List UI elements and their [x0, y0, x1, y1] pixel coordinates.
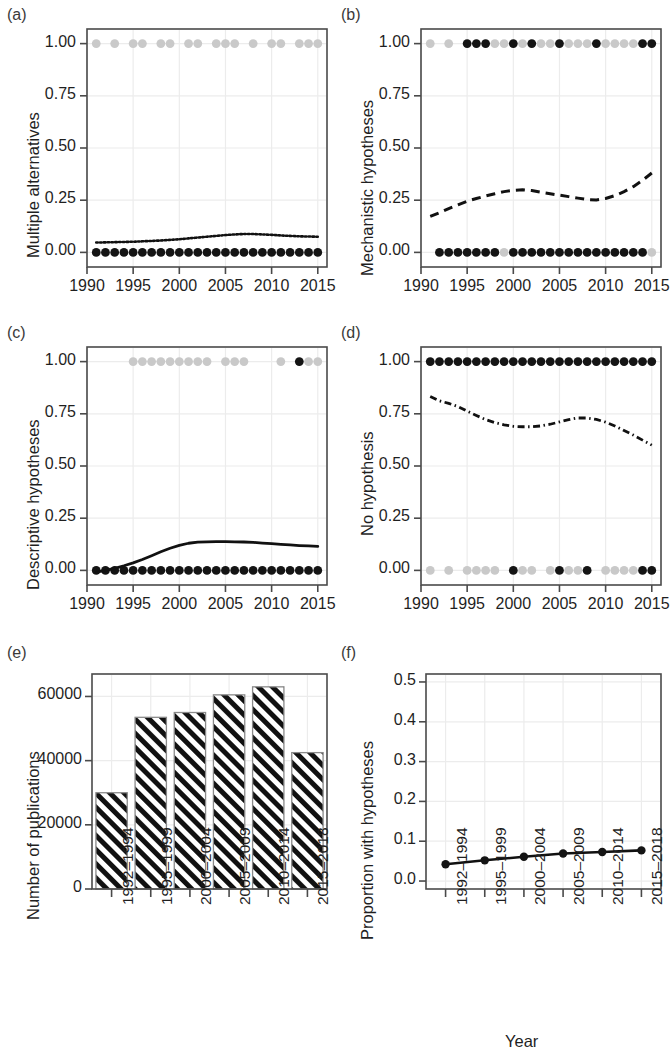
y-tick-label: 0.25 [0, 507, 76, 525]
y-tick-label: 0.00 [0, 241, 76, 259]
x-tick-label: 2015 [632, 277, 672, 295]
x-tick-label: 2000 [493, 595, 533, 613]
x-tick-label: 2005 [539, 595, 579, 613]
y-tick-label: 1.00 [0, 351, 76, 369]
y-tick-label: 0.1 [334, 830, 416, 848]
panel-f: (f) Proportion with hypotheses 0.00.10.2… [334, 630, 668, 1058]
y-tick-label: 0.4 [334, 711, 416, 729]
panel-d-label: (d) [341, 324, 361, 342]
x-tick-label: 1990 [401, 595, 441, 613]
x-tick-label: 1995 [113, 277, 153, 295]
y-tick-label: 0.25 [334, 507, 410, 525]
y-tick-label: 0.5 [334, 671, 416, 689]
x-tick-label: 2005 [539, 277, 579, 295]
x-tick-label: 2010–2014 [275, 827, 293, 905]
panel-f-x-axis-label: Year [505, 1032, 538, 1051]
y-tick-label: 1.00 [334, 351, 410, 369]
x-tick-label: 1995 [447, 595, 487, 613]
y-tick-label: 0.75 [334, 85, 410, 103]
y-tick-label: 60000 [0, 685, 82, 703]
x-tick-label: 1995 [113, 595, 153, 613]
x-tick-label: 1995 [447, 277, 487, 295]
x-tick-label: 2015–2018 [648, 827, 666, 905]
y-tick-label: 0.75 [0, 85, 76, 103]
x-tick-label: 2000 [493, 277, 533, 295]
x-tick-label: 2010 [586, 595, 626, 613]
y-tick-label: 1.00 [0, 33, 76, 51]
x-tick-label: 2015 [298, 595, 338, 613]
y-tick-label: 0.00 [334, 559, 410, 577]
x-tick-label: 2005 [205, 277, 245, 295]
x-tick-label: 2005 [205, 595, 245, 613]
y-tick-label: 1.00 [334, 33, 410, 51]
x-tick-label: 2000 [159, 277, 199, 295]
panel-b-label: (b) [341, 6, 361, 24]
x-tick-label: 1992–1994 [119, 827, 137, 905]
x-tick-label: 1995–1999 [158, 827, 176, 905]
panel-a-y-axis-label: Multiple alternatives [24, 112, 43, 258]
y-tick-label: 0.2 [334, 790, 416, 808]
y-tick-label: 0.00 [0, 559, 76, 577]
x-tick-label: 2000 [159, 595, 199, 613]
panel-c-label: (c) [7, 324, 26, 342]
x-tick-label: 1990 [401, 277, 441, 295]
x-tick-label: 1990 [67, 277, 107, 295]
x-tick-label: 2000–2004 [531, 827, 549, 905]
x-tick-label: 2010–2014 [609, 827, 627, 905]
x-tick-label: 2000–2004 [197, 827, 215, 905]
panel-b: (b) Mechanistic hypotheses 0.000.250.500… [334, 0, 668, 318]
y-tick-label: 0.00 [334, 241, 410, 259]
x-tick-label: 2010 [252, 595, 292, 613]
y-tick-label: 40000 [0, 750, 82, 768]
panel-a-label: (a) [7, 6, 27, 24]
panel-c: (c) Descriptive hypotheses 0.000.250.500… [0, 318, 334, 630]
x-tick-label: 1995–1999 [492, 827, 510, 905]
x-tick-label: 2015 [298, 277, 338, 295]
y-tick-label: 0.25 [0, 189, 76, 207]
x-tick-label: 2010 [586, 277, 626, 295]
x-tick-label: 1990 [67, 595, 107, 613]
panel-f-label: (f) [341, 644, 356, 662]
x-tick-label: 2010 [252, 277, 292, 295]
panel-e: (e) Number of publications 0200004000060… [0, 630, 334, 1058]
y-tick-label: 0.25 [334, 189, 410, 207]
panel-d: (d) No hypothesis 0.000.250.500.751.00 1… [334, 318, 668, 630]
panel-e-label: (e) [7, 644, 27, 662]
y-tick-label: 0.50 [0, 455, 76, 473]
y-tick-label: 0.3 [334, 751, 416, 769]
y-tick-label: 20000 [0, 814, 82, 832]
y-tick-label: 0.50 [334, 455, 410, 473]
x-tick-label: 2015–2018 [314, 827, 332, 905]
x-tick-label: 1992–1994 [453, 827, 471, 905]
y-tick-label: 0 [0, 878, 82, 896]
y-tick-label: 0.50 [0, 137, 76, 155]
x-tick-label: 2005–2009 [236, 827, 254, 905]
y-tick-label: 0.50 [334, 137, 410, 155]
x-tick-label: 2015 [632, 595, 672, 613]
x-tick-label: 2005–2009 [570, 827, 588, 905]
y-tick-label: 0.75 [0, 403, 76, 421]
panel-a: (a) Multiple alternatives 0.000.250.500.… [0, 0, 334, 318]
y-tick-label: 0.0 [334, 870, 416, 888]
y-tick-label: 0.75 [334, 403, 410, 421]
